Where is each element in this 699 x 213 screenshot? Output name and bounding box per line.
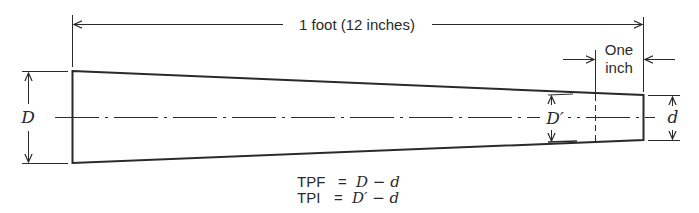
formula-tpi-rhs: D′ − d [351, 189, 399, 207]
formula-tpi-lhs: TPI [297, 189, 320, 206]
formula-tpi: TPI = D′ − d [297, 189, 399, 207]
one-inch-label-line1: One [605, 41, 633, 58]
d-prime-bottom-extension [548, 141, 577, 142]
d-prime-top-extension [548, 94, 573, 95]
overall-length-label: 1 foot (12 inches) [299, 16, 415, 33]
formula-tpi-eq: = [334, 189, 343, 206]
formula-tpf-lhs: TPF [297, 173, 325, 190]
one-inch-label-line2: inch [605, 59, 633, 76]
large-diameter-label: D [20, 107, 35, 127]
one-inch-diameter-label: D′ [545, 108, 564, 128]
taper-diagram: 1 foot (12 inches) One inch D D′ d TPF =… [0, 0, 699, 213]
small-diameter-label: d [668, 107, 679, 127]
formula-tpf-eq: = [338, 173, 347, 190]
